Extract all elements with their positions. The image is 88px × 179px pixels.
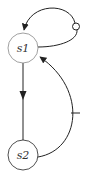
- node-s1-label: s1: [17, 42, 30, 55]
- edge-s1-to-s2: [20, 63, 27, 140]
- node-s2: s2: [8, 140, 38, 170]
- state-diagram: s1 s2: [0, 0, 88, 179]
- node-s2-label: s2: [17, 149, 30, 162]
- node-s1: s1: [8, 33, 38, 63]
- loop-marker-circle: [73, 23, 80, 30]
- edge-s2-to-s1: [38, 57, 80, 157]
